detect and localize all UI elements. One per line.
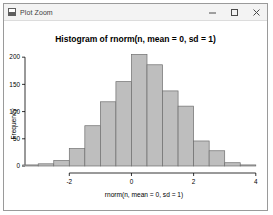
histogram-bar	[54, 161, 70, 166]
x-axis-label: rnorm(n, mean = 0, sd = 1)	[105, 191, 183, 199]
histogram-bar	[131, 54, 147, 166]
minimize-icon	[208, 8, 217, 17]
close-icon	[252, 8, 261, 17]
x-tick-label: -2	[66, 178, 72, 185]
y-tick-label: 200	[9, 53, 20, 60]
y-tick-label: 0	[16, 162, 20, 169]
x-axis: -2024	[66, 173, 258, 185]
x-tick-label: 2	[192, 178, 196, 185]
close-button[interactable]	[245, 4, 267, 21]
histogram-bar	[38, 164, 54, 166]
histogram-bar	[69, 149, 85, 166]
maximize-icon	[230, 8, 239, 17]
histogram-bar	[225, 163, 241, 166]
plot-zoom-window: Plot Zoom Histogram of rnorm(n, mean = 0…	[3, 3, 268, 211]
histogram-bar	[116, 82, 132, 166]
chart-title: Histogram of rnorm(n, mean = 0, sd = 1)	[55, 34, 216, 44]
window-title: Plot Zoom	[20, 9, 53, 16]
maximize-button[interactable]	[223, 4, 245, 21]
histogram-bar	[23, 165, 39, 166]
window-titlebar[interactable]: Plot Zoom	[4, 4, 267, 21]
minimize-button[interactable]	[201, 4, 223, 21]
y-axis-label: Frequency	[10, 108, 18, 140]
x-tick-label: 0	[130, 178, 134, 185]
window-controls	[201, 4, 267, 21]
histogram-bar	[194, 141, 210, 166]
histogram-bar	[85, 126, 101, 166]
histogram-bars	[23, 54, 256, 166]
x-tick-label: 4	[254, 178, 258, 185]
histogram-bar	[209, 151, 225, 166]
histogram-bar	[147, 65, 163, 166]
histogram-bar	[100, 102, 116, 166]
histogram-bar	[240, 165, 256, 166]
y-tick-label: 150	[9, 81, 20, 88]
histogram-bar	[178, 106, 194, 166]
histogram-figure: Histogram of rnorm(n, mean = 0, sd = 1) …	[4, 21, 267, 210]
plot-icon	[8, 8, 16, 16]
histogram-bar	[163, 91, 179, 166]
plot-canvas: Histogram of rnorm(n, mean = 0, sd = 1) …	[4, 21, 267, 210]
